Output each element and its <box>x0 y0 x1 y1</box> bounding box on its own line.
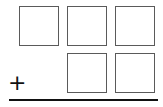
digit-box-row1-hundreds[interactable] <box>19 6 59 46</box>
digit-box-row1-ones[interactable] <box>115 6 155 46</box>
digit-box-row1-tens[interactable] <box>67 6 107 46</box>
sum-line <box>9 99 158 101</box>
plus-sign-icon: + <box>8 73 26 93</box>
digit-box-row2-ones[interactable] <box>115 53 155 93</box>
digit-box-row2-tens[interactable] <box>67 53 107 93</box>
